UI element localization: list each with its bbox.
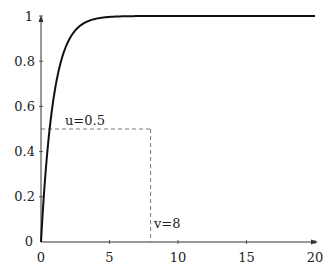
y-tick-label-0.4: 0.4 (14, 144, 35, 159)
y-tick-label-0: 0 (25, 234, 33, 249)
x-tick-label-0: 0 (37, 250, 45, 265)
y-tick-label-0.8: 0.8 (14, 54, 35, 69)
y-tick-label-0.2: 0.2 (14, 189, 35, 204)
chart: 0 5 10 15 20 0 0.2 0.4 0.6 0.8 1 u=0.5 v… (0, 0, 332, 271)
y-tick-label-0.6: 0.6 (14, 99, 35, 114)
y-tick-label-1: 1 (25, 9, 33, 24)
data-curve (41, 16, 315, 242)
x-tick-label-5: 5 (105, 250, 113, 265)
u-annotation: u=0.5 (65, 113, 105, 128)
v-annotation: v=8 (153, 216, 181, 231)
x-tick-label-15: 15 (238, 250, 255, 265)
x-axis-arrow-icon (311, 240, 318, 245)
x-tick-label-10: 10 (170, 250, 187, 265)
x-tick-label-20: 20 (307, 250, 324, 265)
